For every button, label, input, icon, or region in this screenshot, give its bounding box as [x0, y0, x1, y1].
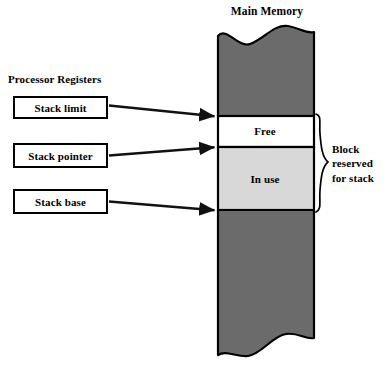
memory-upper-dark-region — [218, 26, 314, 116]
memory-label-in-use: In use — [218, 173, 312, 185]
memory-column-graphic — [216, 22, 316, 360]
block-caption-line-1: Block — [332, 142, 374, 156]
processor-registers-heading: Processor Registers — [8, 74, 101, 86]
arrow-stack-pointer — [109, 147, 215, 155]
register-box-stack-limit: Stack limit — [13, 96, 108, 119]
block-caption-line-2: reserved — [332, 156, 374, 170]
main-memory-column — [216, 22, 316, 360]
stack-memory-diagram: Main Memory Processor Registers Stack li… — [0, 0, 390, 367]
memory-label-free: Free — [218, 125, 312, 137]
arrow-stack-limit — [109, 106, 215, 117]
arrow-stack-base — [109, 202, 215, 211]
register-box-stack-pointer: Stack pointer — [13, 143, 108, 168]
memory-lower-dark-region — [218, 210, 314, 356]
register-box-stack-base: Stack base — [13, 189, 108, 214]
block-reserved-brace — [313, 112, 331, 214]
main-memory-title: Main Memory — [221, 5, 313, 17]
block-caption-line-3: for stack — [332, 171, 374, 185]
block-reserved-caption: Block reserved for stack — [332, 142, 374, 185]
